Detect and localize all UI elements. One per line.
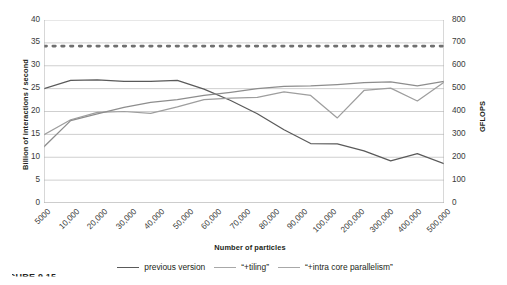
legend-swatch-icon (117, 267, 139, 268)
y-axis-right-tick-label: 200 (452, 152, 478, 161)
legend-item-label: previous version (144, 263, 205, 271)
legend-item[interactable]: “+intra core parallelism” (278, 263, 393, 271)
y-axis-left-tick-label: 0 (14, 198, 40, 207)
y-axis-right-tick-label: 500 (452, 83, 478, 92)
y-axis-left-tick-label: 40 (14, 15, 40, 24)
y-axis-left-tick-label: 20 (14, 106, 40, 115)
y-axis-right-tick-label: 700 (452, 37, 478, 46)
gridlines (44, 20, 444, 203)
y-axis-right-tick-label: 800 (452, 15, 478, 24)
y-axis-right-tick-label: 0 (452, 198, 478, 207)
figure-root: Billion of interactions / second GFLOPS … (0, 0, 507, 285)
legend-swatch-icon (214, 267, 236, 268)
y-axis-left-tick-label: 10 (14, 152, 40, 161)
series-line (44, 81, 444, 146)
y-axis-left-tick-label: 35 (14, 37, 40, 46)
y-axis-left-tick-label: 15 (14, 129, 40, 138)
y-axis-left-tick-label: 5 (14, 175, 40, 184)
figure-caption: FIGURE 9.15 (0, 272, 56, 282)
plot-area (44, 20, 444, 203)
y-axis-right-title: GFLOPS (478, 52, 487, 182)
x-axis-title: Number of particles (140, 243, 360, 252)
y-axis-left-tick-label: 30 (14, 60, 40, 69)
chart-legend: previous version“+tiling”“+intra core pa… (90, 258, 420, 276)
legend-item[interactable]: previous version (117, 263, 205, 271)
y-axis-right-tick-label: 600 (452, 60, 478, 69)
y-axis-right-tick-label: 300 (452, 129, 478, 138)
y-axis-right-tick-label: 100 (452, 175, 478, 184)
chart-canvas (44, 20, 444, 203)
legend-swatch-icon (278, 267, 300, 268)
y-axis-left-tick-label: 25 (14, 83, 40, 92)
legend-item-label: “+tiling” (241, 263, 269, 271)
legend-item[interactable]: “+tiling” (214, 263, 269, 271)
series-line (44, 80, 444, 164)
series-lines (44, 46, 444, 164)
y-axis-right-tick-label: 400 (452, 106, 478, 115)
legend-item-label: “+intra core parallelism” (305, 263, 393, 271)
